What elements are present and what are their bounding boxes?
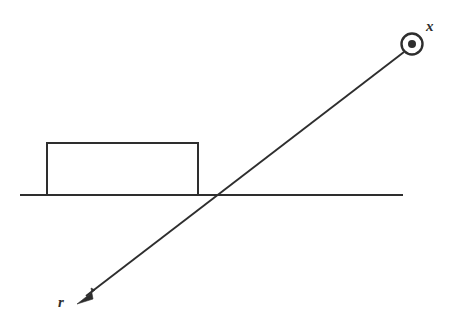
figure-root: x r <box>0 0 457 329</box>
diagram-canvas: x r <box>0 0 457 329</box>
rectangular-block <box>47 143 198 195</box>
axis-out-of-page-label: x <box>425 18 434 34</box>
out-of-page-dot-icon <box>408 40 416 48</box>
ray-label: r <box>58 294 64 310</box>
out-of-page-vector-symbol <box>402 34 423 55</box>
ray-line <box>86 52 404 296</box>
